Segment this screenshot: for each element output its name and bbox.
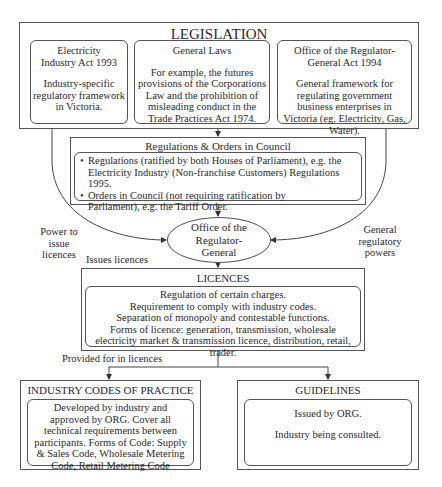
org-ellipse: Office of the Regulator-General <box>167 217 271 263</box>
legislation-item-general-laws: General Laws For example, the futures pr… <box>134 40 270 124</box>
legislation-item-electricity-act: Electricity Industry Act 1993 Industry-s… <box>30 40 128 124</box>
org-label: Office of the Regulator-General <box>180 221 258 259</box>
item-heading: General Laws <box>137 45 267 57</box>
item-heading: Electricity Industry Act 1993 <box>33 45 125 68</box>
item-body: For example, the futures provisions of t… <box>137 67 267 125</box>
licences-line: Regulation of certain charges. <box>92 289 354 301</box>
regulations-inner-box: Regulations (ratified by both Houses of … <box>74 152 362 201</box>
codes-inner-box: Developed by industry and approved by OR… <box>27 399 194 466</box>
licences-line: Forms of licence: generation, transmissi… <box>92 324 354 359</box>
licences-inner-box: Regulation of certain charges. Requireme… <box>85 286 361 347</box>
guidelines-title: GUIDELINES <box>238 384 418 397</box>
regulations-list: Regulations (ratified by both Houses of … <box>79 155 357 213</box>
edge-label-power-to-issue: Power to issue licences <box>34 226 84 261</box>
regulations-bullet: Orders in Council (not requiring ratific… <box>79 190 357 213</box>
guidelines-line: Issued by ORG. <box>249 408 407 420</box>
licences-line: Separation of monopoly and contestable f… <box>92 312 354 324</box>
item-heading: Office of the Regulator-General Act 1994 <box>280 45 409 68</box>
item-body: Industry-specific regulatory framework i… <box>33 78 125 113</box>
licences-line: Requirement to comply with industry code… <box>92 301 354 313</box>
edge-label-general-powers: General regulatory powers <box>350 224 410 259</box>
guidelines-inner-box: Issued by ORG. Industry being consulted. <box>244 399 412 466</box>
legislation-item-org-act: Office of the Regulator-General Act 1994… <box>277 40 412 124</box>
codes-title: INDUSTRY CODES OF PRACTICE <box>21 384 200 397</box>
item-body: General framework for regulating governm… <box>280 78 409 136</box>
regulations-bullet: Regulations (ratified by both Houses of … <box>79 155 357 190</box>
guidelines-line: Industry being consulted. <box>249 429 407 441</box>
edge-label-issues-licences: Issues licences <box>86 254 156 266</box>
licences-title: LICENCES <box>82 272 364 285</box>
codes-body: Developed by industry and approved by OR… <box>34 402 187 472</box>
